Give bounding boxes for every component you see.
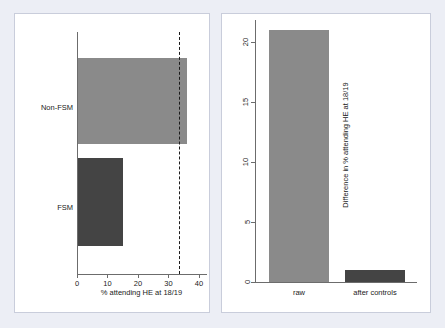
y-tick-20: [251, 42, 255, 43]
x-tick-10: [107, 274, 108, 278]
y-axis-line-right: [255, 20, 256, 283]
y-tick-label-20: 20: [240, 37, 249, 45]
plot-area-right: [255, 20, 415, 282]
y-axis-line-left: [77, 32, 78, 274]
bar-fsm: [77, 158, 123, 246]
figure-canvas: Non-FSM FSM 010203040 % attending HE at …: [0, 0, 445, 328]
x-tick-label-20: 20: [134, 279, 142, 288]
reference-dashed-line: [179, 32, 180, 274]
x-axis-line-right: [255, 282, 417, 283]
bar-raw: [269, 30, 329, 282]
x-axis-title-left: % attending HE at 18/19: [77, 288, 206, 297]
x-tick-0: [77, 274, 78, 278]
category-label-non-fsm: Non-FSM: [29, 103, 73, 112]
y-tick-15: [251, 102, 255, 103]
y-tick-5: [251, 222, 255, 223]
plot-area-left: [77, 32, 205, 274]
x-tick-label-0: 0: [75, 279, 79, 288]
y-tick-10: [251, 162, 255, 163]
y-tick-label-10: 10: [240, 158, 249, 166]
bar-after-controls: [345, 270, 405, 282]
x-tick-label-40: 40: [195, 279, 203, 288]
x-tick-40: [199, 274, 200, 278]
chart-panel-left: Non-FSM FSM 010203040 % attending HE at …: [14, 13, 210, 313]
y-tick-label-15: 15: [240, 98, 249, 106]
x-tick-label-10: 10: [103, 279, 111, 288]
x-tick-20: [138, 274, 139, 278]
category-label-raw: raw: [293, 288, 305, 297]
y-tick-label-5: 5: [242, 220, 251, 224]
x-tick-30: [168, 274, 169, 278]
bar-non-fsm: [77, 58, 187, 144]
category-label-after-controls: after controls: [353, 288, 396, 297]
y-tick-label-0: 0: [242, 280, 251, 284]
x-tick-label-30: 30: [164, 279, 172, 288]
category-label-fsm: FSM: [29, 203, 73, 212]
